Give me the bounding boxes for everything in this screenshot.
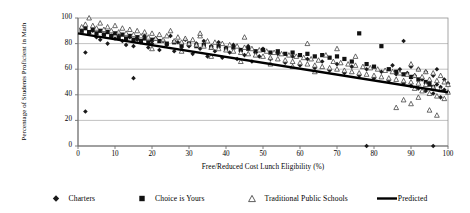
data-point-traditional-public-schools xyxy=(379,74,384,79)
data-point-traditional-public-schools xyxy=(176,35,181,40)
data-point-choice-is-yours xyxy=(350,59,354,63)
data-point-charters xyxy=(157,48,162,53)
data-point-traditional-public-schools xyxy=(120,26,125,31)
data-point-charters xyxy=(431,144,436,149)
data-point-traditional-public-schools xyxy=(83,22,88,27)
data-point-traditional-public-schools xyxy=(401,78,406,83)
data-point-traditional-public-schools xyxy=(290,59,295,64)
data-point-traditional-public-schools xyxy=(435,113,440,118)
legend-label-traditional-public-schools: Traditional Public Schools xyxy=(265,194,348,203)
triangle-icon xyxy=(239,193,265,204)
data-point-charters xyxy=(131,44,136,49)
legend-label-predicted: Predicted xyxy=(398,194,428,203)
data-point-traditional-public-schools xyxy=(435,94,440,99)
data-point-traditional-public-schools xyxy=(442,80,447,85)
data-point-traditional-public-schools xyxy=(90,23,95,28)
data-point-traditional-public-schools xyxy=(401,97,406,102)
data-point-traditional-public-schools xyxy=(409,101,414,106)
data-point-traditional-public-schools xyxy=(353,54,358,59)
data-point-choice-is-yours xyxy=(291,50,295,54)
data-point-charters xyxy=(390,63,395,68)
data-point-traditional-public-schools xyxy=(438,73,443,78)
data-point-traditional-public-schools xyxy=(409,80,414,85)
data-point-traditional-public-schools xyxy=(372,73,377,78)
square-icon xyxy=(129,193,155,204)
data-point-traditional-public-schools xyxy=(298,60,303,65)
data-point-charters xyxy=(83,50,88,55)
data-point-charters xyxy=(401,39,406,44)
data-point-choice-is-yours xyxy=(342,57,346,61)
legend-label-choice-is-yours: Choice is Yours xyxy=(155,194,204,203)
data-point-choice-is-yours xyxy=(94,31,98,35)
data-point-traditional-public-schools xyxy=(305,62,310,67)
data-point-choice-is-yours xyxy=(387,67,391,71)
plot-area xyxy=(0,0,470,213)
data-point-choice-is-yours xyxy=(357,31,361,35)
data-point-traditional-public-schools xyxy=(394,77,399,82)
line-icon xyxy=(376,193,398,204)
data-point-traditional-public-schools xyxy=(168,28,173,33)
data-point-traditional-public-schools xyxy=(150,31,155,36)
data-point-traditional-public-schools xyxy=(242,35,247,40)
data-point-choice-is-yours xyxy=(335,54,339,58)
data-point-choice-is-yours xyxy=(298,53,302,57)
data-point-traditional-public-schools xyxy=(150,46,155,51)
diamond-icon xyxy=(43,193,69,204)
data-point-traditional-public-schools xyxy=(275,56,280,61)
legend-item-charters: Charters xyxy=(43,193,96,204)
data-point-traditional-public-schools xyxy=(349,69,354,74)
data-point-traditional-public-schools xyxy=(342,68,347,73)
data-point-traditional-public-schools xyxy=(416,95,421,100)
data-point-traditional-public-schools xyxy=(98,21,103,26)
data-point-traditional-public-schools xyxy=(320,64,325,69)
legend-item-traditional-public-schools: Traditional Public Schools xyxy=(239,193,348,204)
data-point-traditional-public-schools xyxy=(105,24,110,29)
chart-legend: Charters Choice is Yours Traditional Pub… xyxy=(0,190,470,206)
data-point-charters xyxy=(131,76,136,81)
data-point-choice-is-yours xyxy=(87,30,91,34)
data-point-traditional-public-schools xyxy=(113,23,118,28)
data-point-traditional-public-schools xyxy=(283,58,288,63)
data-point-choice-is-yours xyxy=(305,52,309,56)
data-point-traditional-public-schools xyxy=(190,37,195,42)
data-point-traditional-public-schools xyxy=(420,74,425,79)
data-point-traditional-public-schools xyxy=(442,96,447,101)
data-point-traditional-public-schools xyxy=(135,28,140,33)
data-point-charters xyxy=(364,144,369,149)
data-point-traditional-public-schools xyxy=(394,105,399,110)
data-point-choice-is-yours xyxy=(313,54,317,58)
data-point-charters xyxy=(83,109,88,114)
legend-label-charters: Charters xyxy=(69,194,96,203)
predicted-trendline xyxy=(78,33,448,92)
data-point-traditional-public-schools xyxy=(157,32,162,37)
data-point-traditional-public-schools xyxy=(335,46,340,51)
data-point-traditional-public-schools xyxy=(268,55,273,60)
data-point-traditional-public-schools xyxy=(357,71,362,76)
data-point-choice-is-yours xyxy=(372,65,376,69)
data-point-traditional-public-schools xyxy=(386,76,391,81)
data-point-choice-is-yours xyxy=(379,44,383,48)
data-point-traditional-public-schools xyxy=(183,36,188,41)
data-point-traditional-public-schools xyxy=(427,108,432,113)
data-point-traditional-public-schools xyxy=(435,78,440,83)
data-point-traditional-public-schools xyxy=(409,62,414,67)
data-point-traditional-public-schools xyxy=(246,51,251,56)
data-point-traditional-public-schools xyxy=(427,77,432,82)
data-point-traditional-public-schools xyxy=(431,71,436,76)
data-point-traditional-public-schools xyxy=(142,30,147,35)
data-point-traditional-public-schools xyxy=(312,63,317,68)
data-point-traditional-public-schools xyxy=(198,31,203,36)
data-point-choice-is-yours xyxy=(276,49,280,53)
legend-item-choice-is-yours: Choice is Yours xyxy=(129,193,204,204)
data-point-traditional-public-schools xyxy=(364,72,369,77)
data-point-traditional-public-schools xyxy=(327,65,332,70)
legend-item-predicted: Predicted xyxy=(376,193,428,204)
data-point-charters xyxy=(435,67,440,72)
data-point-charters xyxy=(105,41,110,46)
scatter-chart: Percentage of Students Proficient in Mat… xyxy=(0,0,470,213)
data-point-choice-is-yours xyxy=(365,62,369,66)
data-point-traditional-public-schools xyxy=(127,27,132,32)
plot-frame xyxy=(78,18,448,146)
